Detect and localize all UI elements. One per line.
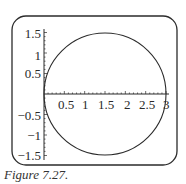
x-tick-label: 1 (82, 97, 89, 112)
figure-caption: Figure 7.27. (4, 167, 68, 183)
plot-svg: 0.5 1 1.5 2 2.5 3 1.5 1 0.5 −0.5 −1 −1.5 (0, 0, 186, 184)
x-tick-labels: 0.5 1 1.5 2 2.5 3 (58, 97, 170, 112)
x-tick-label: 3 (163, 97, 170, 112)
y-tick-label: −1.5 (17, 148, 41, 163)
x-tick-label: 2.5 (139, 97, 155, 112)
y-tick-label: −0.5 (17, 108, 41, 123)
y-tick-label: −1 (27, 128, 41, 143)
figure: 0.5 1 1.5 2 2.5 3 1.5 1 0.5 −0.5 −1 −1.5… (0, 0, 186, 184)
x-tick-label: 0.5 (58, 97, 74, 112)
y-tick-label: 1 (35, 48, 42, 63)
y-tick-label: 0.5 (25, 66, 41, 81)
x-tick-label: 1.5 (98, 97, 114, 112)
y-tick-label: 1.5 (25, 26, 41, 41)
x-tick-label: 2 (124, 97, 131, 112)
y-tick-labels: 1.5 1 0.5 −0.5 −1 −1.5 (17, 26, 41, 163)
